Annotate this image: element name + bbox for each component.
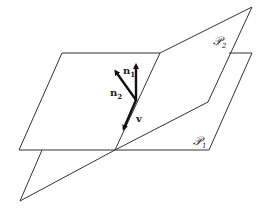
label-n1: n1 — [123, 65, 135, 79]
vector-v — [124, 100, 136, 128]
two-planes-diagram: n1 n2 v 𝒫2 𝒫1 — [0, 0, 266, 212]
intersection-line — [115, 53, 160, 150]
label-n2: n2 — [110, 87, 122, 101]
label-plane-p1: 𝒫1 — [193, 134, 206, 150]
label-plane-p2: 𝒫2 — [213, 34, 227, 50]
label-v: v — [135, 113, 143, 124]
